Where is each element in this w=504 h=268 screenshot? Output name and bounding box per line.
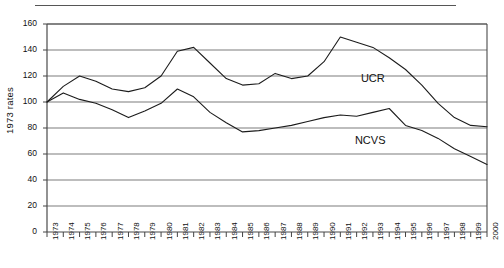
plot-canvas [0, 0, 504, 268]
chart-figure: 1973 rates 020406080100120140160 1973197… [0, 0, 504, 268]
data-series [47, 37, 487, 164]
series-label-ucr: UCR [361, 72, 385, 84]
gridlines [47, 24, 487, 206]
series-label-ncvs: NCVS [355, 134, 386, 146]
